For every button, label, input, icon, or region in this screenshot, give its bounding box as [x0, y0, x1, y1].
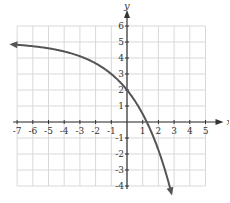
- x-tick-label: 4: [187, 126, 193, 136]
- y-tick-label: 1: [118, 101, 124, 111]
- y-axis-arrow-icon: [124, 10, 130, 18]
- down-arrow-icon: [167, 187, 174, 196]
- y-tick-label: -4: [115, 181, 124, 191]
- x-tick-label: -2: [91, 126, 100, 136]
- chart: -7-6-5-4-3-2-112345-4-3-2-1123456 x y: [0, 0, 229, 203]
- y-tick-label: -2: [115, 149, 124, 159]
- x-tick-label: -7: [13, 126, 22, 136]
- x-tick-label: -6: [28, 126, 37, 136]
- x-tick-label: -5: [44, 126, 53, 136]
- function-curve: [12, 44, 171, 191]
- y-tick-label: -1: [115, 133, 124, 143]
- y-tick-label: 3: [118, 69, 124, 79]
- y-tick-label: 5: [118, 37, 124, 47]
- x-tick-label: -4: [60, 126, 69, 136]
- x-tick-label: -3: [76, 126, 85, 136]
- left-arrow-icon: [9, 41, 17, 48]
- x-tick-label: 5: [203, 126, 209, 136]
- x-tick-label: 1: [140, 126, 146, 136]
- y-tick-label: 6: [118, 21, 124, 31]
- x-tick-label: 2: [156, 126, 162, 136]
- y-tick-label: -3: [115, 165, 124, 175]
- grid-lines: [17, 26, 205, 186]
- x-axis-label: x: [227, 116, 230, 127]
- y-axis-label: y: [123, 0, 130, 11]
- x-tick-label: 3: [171, 126, 177, 136]
- x-axis-arrow-icon: [216, 119, 224, 125]
- y-tick-label: 4: [118, 53, 124, 63]
- curve-arrows: [9, 41, 173, 195]
